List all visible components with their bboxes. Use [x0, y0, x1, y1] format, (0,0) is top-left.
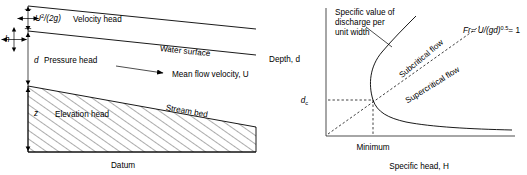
water-surface-label: Water surface	[159, 44, 211, 58]
froude-number-label: Fr= U/(gd)0.5= 1	[463, 25, 520, 35]
specific-energy-panel: Specific value of discharge per unit wid…	[269, 8, 520, 171]
discharge-annotation-line-2: discharge per	[335, 18, 385, 27]
combined-figure-svg: U2/(2g) Velocity head h d Pressure head …	[0, 0, 527, 175]
stream-bed-hatched-region	[28, 86, 256, 152]
datum-label: Datum	[111, 161, 135, 170]
critical-depth-label: dc	[301, 96, 309, 106]
elevation-head-label: Elevation head	[55, 110, 110, 119]
specific-energy-curve-upper-branch	[370, 16, 416, 100]
energy-grade-line	[28, 6, 256, 29]
vh-arrow-up	[26, 7, 31, 12]
y-axis-label: Depth, d	[269, 55, 300, 64]
critical-flow-line	[328, 26, 480, 134]
discharge-annotation-line-3: unit width	[335, 28, 370, 37]
subcritical-flow-label: Subcritical flow	[397, 38, 445, 80]
mean-flow-velocity-label: Mean flow velocity, U	[172, 70, 249, 79]
x-axis-label: Specific head, H	[389, 162, 449, 171]
d-symbol-label: d	[34, 56, 39, 65]
minimum-label: Minimum	[356, 143, 389, 152]
h-arrow-up	[12, 27, 16, 32]
specific-energy-curve-lower-branch	[373, 100, 512, 130]
open-channel-flow-panel: U2/(2g) Velocity head h d Pressure head …	[2, 6, 257, 170]
pressure-head-label: Pressure head	[44, 56, 98, 65]
h-symbol-label: h	[5, 35, 10, 44]
velocity-head-term: U2/(2g)	[35, 13, 61, 23]
annotation-leader-line	[366, 27, 392, 47]
h-arrow-down	[12, 47, 16, 52]
mean-flow-velocity-arrow	[116, 66, 163, 73]
z-symbol-label: z	[33, 109, 38, 118]
ph-arrow-down	[26, 81, 31, 86]
ph-arrow-up	[26, 33, 31, 38]
water-surface-line	[28, 31, 256, 55]
discharge-annotation-line-1: Specific value of	[335, 8, 395, 17]
figure-root: U2/(2g) Velocity head h d Pressure head …	[0, 0, 527, 175]
velocity-head-label: Velocity head	[73, 15, 122, 24]
